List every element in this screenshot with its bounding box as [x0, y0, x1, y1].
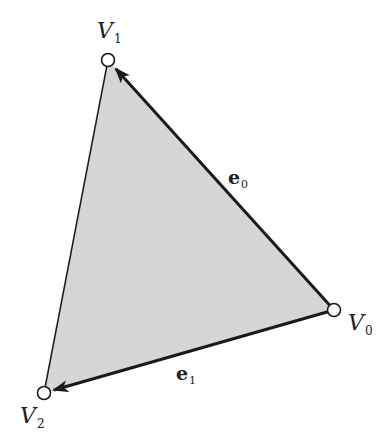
- vertex-v1-marker: [102, 54, 115, 67]
- edge-label-e0-sub: 0: [241, 178, 248, 191]
- edge-label-e1-sub: 1: [189, 374, 196, 387]
- vertex-label-v0: V0: [348, 312, 373, 337]
- vertex-label-v1-sub: 1: [114, 32, 122, 46]
- edge-label-e0: e0: [228, 168, 248, 190]
- vertex-label-v2-base: V: [20, 403, 36, 428]
- edge-label-e1: e1: [176, 364, 196, 386]
- edge-label-e1-base: e: [176, 362, 188, 384]
- vertex-v0-marker: [328, 304, 341, 317]
- vertex-label-v2-sub: 2: [37, 417, 45, 431]
- vertex-label-v0-base: V: [348, 310, 364, 335]
- vertex-v2-marker: [38, 387, 51, 400]
- vertex-label-v0-sub: 0: [365, 324, 373, 338]
- vertex-label-v1: V1: [97, 20, 122, 45]
- vertex-label-v1-base: V: [97, 18, 113, 43]
- edge-label-e0-base: e: [228, 166, 240, 188]
- vertex-label-v2: V2: [20, 405, 45, 430]
- triangle-face: [44, 60, 334, 393]
